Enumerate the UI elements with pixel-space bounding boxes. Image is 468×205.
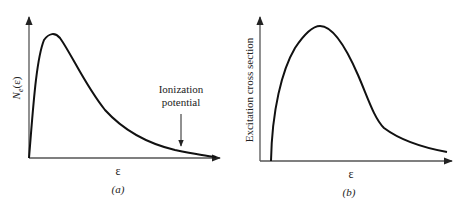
panel-b: Excitation cross section ε (b) — [243, 17, 452, 199]
cross-section-curve-b — [271, 26, 447, 161]
caption-b: (b) — [343, 186, 356, 199]
x-axis-label-b: ε — [348, 167, 353, 181]
annotation-line2: potential — [162, 96, 201, 108]
x-axis-label-a: ε — [115, 164, 120, 178]
annotation-line1: Ionization — [159, 83, 204, 95]
caption-a: (a) — [112, 183, 125, 196]
y-axis-label-b: Excitation cross section — [243, 37, 255, 142]
panel-a: Ne(ε) Ionization potential ε (a) — [10, 17, 220, 196]
figure-canvas: Ne(ε) Ionization potential ε (a) Excitat… — [0, 0, 468, 205]
y-axis-label-a: Ne(ε) — [10, 76, 25, 100]
